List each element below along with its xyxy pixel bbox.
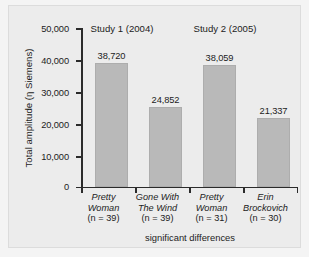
y-tick-50000: 50,000 xyxy=(76,28,81,30)
bar-erin-brockovich[interactable]: 21,337 xyxy=(257,118,290,186)
y-tick-label-10000: 10,000 xyxy=(41,152,69,162)
x-category-n-1: (n = 39) xyxy=(127,213,189,224)
x-axis-title: significant differences xyxy=(145,232,235,243)
y-tick-label-0: 0 xyxy=(64,182,69,192)
chart-figure: Total amplitude (η Siemens) Study 1 (200… xyxy=(0,0,309,257)
x-category-label-3: Erin Brockovich (n = 30) xyxy=(235,192,297,224)
y-tick-40000: 40,000 xyxy=(76,60,81,62)
bar-gone-with-the-wind[interactable]: 24,852 xyxy=(149,107,182,187)
x-category-n-0: (n = 39) xyxy=(73,213,135,224)
bar-value-label-0: 38,720 xyxy=(98,51,126,61)
x-category-n-3: (n = 30) xyxy=(235,213,297,224)
plot-area: 50,000 40,000 30,000 20,000 10,000 0 xyxy=(81,28,298,188)
bar-value-label-2: 38,059 xyxy=(206,53,234,63)
x-category-name-1-line2: The Wind xyxy=(127,203,189,214)
x-category-name-1-line1: Gone With xyxy=(127,192,189,203)
x-category-n-2: (n = 31) xyxy=(181,213,243,224)
y-tick-20000: 20,000 xyxy=(76,124,81,126)
y-tick-label-30000: 30,000 xyxy=(41,88,69,98)
y-tick-label-20000: 20,000 xyxy=(41,120,69,130)
chart-panel: Total amplitude (η Siemens) Study 1 (200… xyxy=(8,5,301,248)
x-category-name-0-line2: Woman xyxy=(73,203,135,214)
y-axis-title: Total amplitude (η Siemens) xyxy=(22,28,36,188)
bar-pretty-woman-study1[interactable]: 38,720 xyxy=(95,63,128,187)
y-axis-line xyxy=(81,28,83,188)
y-tick-label-40000: 40,000 xyxy=(41,56,69,66)
x-category-name-3-line2: Brockovich xyxy=(235,203,297,214)
bar-pretty-woman-study2[interactable]: 38,059 xyxy=(203,65,236,187)
x-category-name-0-line1: Pretty xyxy=(73,192,135,203)
bar-value-label-1: 24,852 xyxy=(152,95,180,105)
x-tick-4 xyxy=(297,188,299,193)
x-category-label-1: Gone With The Wind (n = 39) xyxy=(127,192,189,224)
x-category-name-2-line2: Woman xyxy=(181,203,243,214)
y-tick-label-50000: 50,000 xyxy=(41,24,69,34)
x-category-name-3-line1: Erin xyxy=(235,192,297,203)
x-category-label-2: Pretty Woman (n = 31) xyxy=(181,192,243,224)
bar-value-label-3: 21,337 xyxy=(260,106,288,116)
y-tick-30000: 30,000 xyxy=(76,92,81,94)
x-category-name-2-line1: Pretty xyxy=(181,192,243,203)
x-category-label-0: Pretty Woman (n = 39) xyxy=(73,192,135,224)
y-tick-10000: 10,000 xyxy=(76,156,81,158)
